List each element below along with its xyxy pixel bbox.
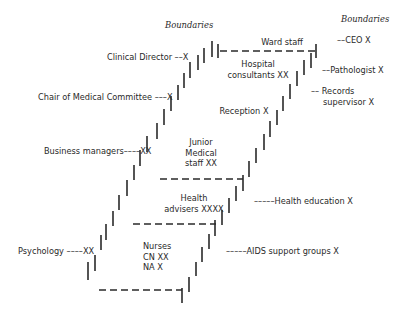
junior-medical-staff-line-1: Junior [176, 137, 226, 148]
hospital-consultants-line-2: consultants XX [220, 70, 296, 81]
health-education-line: –––––Health education X [254, 196, 353, 207]
ceo-line: ––CEO X [337, 35, 371, 46]
nurses-line-2: CN XX [143, 252, 171, 263]
junior-medical-staff-line-2: Medical [176, 148, 226, 159]
chair-medical-committee-label: Chair of Medical Committee –––X [38, 92, 173, 103]
aids-support-groups-line: –––––AIDS support groups X [226, 246, 339, 257]
records-supervisor-line-2: supervisor X [311, 97, 374, 108]
pathologist-label: ––Pathologist X [322, 65, 384, 76]
reception-line: Reception X [212, 106, 276, 117]
records-supervisor-label: –– Records supervisor X [311, 86, 374, 107]
right-boundaries-header: Boundaries [341, 14, 389, 25]
psychology-label: Psychology ––––XX [18, 246, 94, 257]
ward-staff-label: Ward staff [250, 37, 314, 48]
health-advisers-label: Health advisers XXXX [158, 193, 230, 214]
junior-medical-staff-line-3: staff XX [176, 158, 226, 169]
health-advisers-line-1: Health [158, 193, 230, 204]
health-advisers-line-2: advisers XXXX [158, 204, 230, 215]
nurses-line-3: NA X [143, 262, 171, 273]
nurses-line-1: Nurses [143, 241, 171, 252]
pathologist-line: ––Pathologist X [322, 65, 384, 76]
clinical-director-label: Clinical Director ––X [107, 52, 188, 63]
aids-support-groups-label: –––––AIDS support groups X [226, 246, 339, 257]
nurses-label: Nurses CN XX NA X [143, 241, 171, 273]
ward-staff-line: Ward staff [250, 37, 314, 48]
hospital-consultants-label: Hospital consultants XX [220, 59, 296, 80]
junior-medical-staff-label: Junior Medical staff XX [176, 137, 226, 169]
reception-label: Reception X [212, 106, 276, 117]
hospital-consultants-line-1: Hospital [220, 59, 296, 70]
ceo-label: ––CEO X [337, 35, 371, 46]
left-boundaries-header: Boundaries [165, 20, 213, 31]
health-education-label: –––––Health education X [254, 196, 353, 207]
records-supervisor-line-1: –– Records [311, 86, 374, 97]
business-managers-label: Business managers––––XX [44, 146, 151, 157]
